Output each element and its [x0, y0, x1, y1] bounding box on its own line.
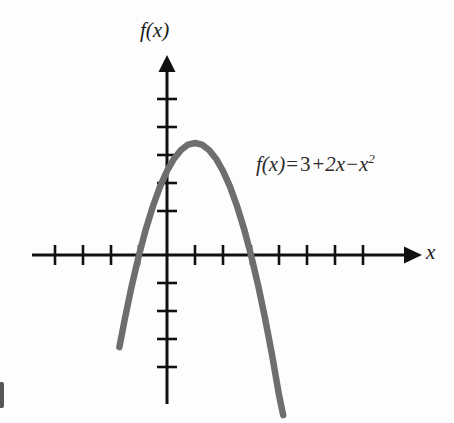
x-axis-label: x — [426, 240, 435, 265]
equation-equals-sign: = — [285, 152, 299, 176]
equation-annotation: f(x)=3+2x−x2 — [256, 152, 375, 177]
parabola-curve — [119, 143, 283, 415]
x-axis-arrowhead-icon — [404, 247, 422, 264]
page-scan-edge-artifact — [0, 382, 4, 408]
equation-constant-term: 3 — [299, 152, 312, 176]
equation-linear-term: 2x — [325, 152, 345, 176]
equation-quadratic-base: x — [359, 152, 368, 176]
equation-quadratic-exponent: 2 — [368, 151, 375, 166]
y-axis-label: f(x) — [140, 18, 169, 43]
graph-canvas — [0, 0, 454, 423]
equation-minus-sign: − — [345, 152, 359, 176]
equation-plus-sign: + — [312, 152, 326, 176]
y-axis-arrowhead-icon — [159, 55, 176, 72]
equation-lhs: f(x) — [256, 152, 285, 176]
parabola-figure: f(x) x f(x)=3+2x−x2 — [0, 0, 454, 423]
